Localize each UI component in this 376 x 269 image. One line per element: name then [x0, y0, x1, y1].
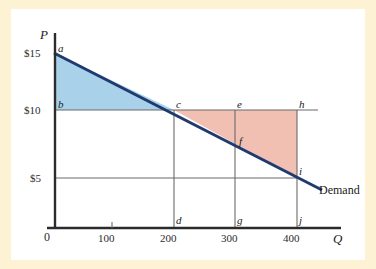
x-tick-label-100: 100 — [98, 232, 115, 244]
point-label-f: f — [239, 135, 242, 147]
point-label-a: a — [58, 42, 64, 54]
point-label-e: e — [237, 98, 242, 110]
x-tick-label-400: 400 — [283, 232, 300, 244]
y-tick-label-15: $15 — [24, 47, 41, 59]
x-axis-title: Q — [333, 231, 342, 247]
point-label-g: g — [237, 214, 243, 226]
y-axis-title: P — [40, 27, 48, 43]
point-label-h: h — [299, 98, 305, 110]
demand-curve-chart — [11, 9, 365, 260]
demand-curve-label: Demand — [319, 183, 360, 198]
point-label-c: c — [176, 98, 181, 110]
point-label-b: b — [58, 98, 64, 110]
y-tick-label-10: $10 — [24, 104, 41, 116]
point-label-i: i — [299, 165, 302, 177]
origin-label: 0 — [44, 230, 50, 245]
point-label-d: d — [176, 214, 182, 226]
y-tick-label-5: $5 — [30, 172, 41, 184]
x-tick-label-200: 200 — [160, 232, 177, 244]
chart-card: P Q 0 $15 $10 $5 100 200 300 400 a b c d… — [11, 9, 365, 260]
x-tick-label-300: 300 — [221, 232, 238, 244]
screenshot-root: P Q 0 $15 $10 $5 100 200 300 400 a b c d… — [0, 0, 376, 269]
point-label-j: j — [299, 214, 302, 226]
